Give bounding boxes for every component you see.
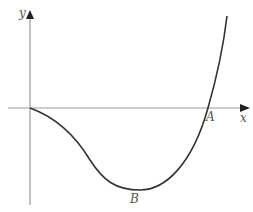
- function-curve: [30, 16, 227, 190]
- x-axis-label: x: [240, 112, 247, 124]
- curve-diagram: [0, 0, 253, 212]
- point-a-label: A: [206, 111, 215, 123]
- y-axis-arrow-icon: [26, 10, 34, 19]
- y-axis-label: y: [19, 7, 26, 19]
- point-b-label: B: [130, 193, 139, 205]
